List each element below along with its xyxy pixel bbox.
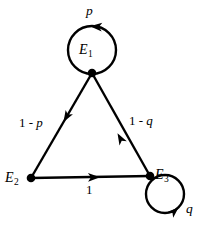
self-loop-label-q: q bbox=[186, 202, 193, 216]
state-label-E1-text: E bbox=[79, 42, 88, 57]
self-loop-label-p: p bbox=[86, 4, 93, 18]
state-label-E1: E1 bbox=[79, 43, 93, 59]
state-transition-diagram: E1 E2 E3 p q 1 - p 1 - q 1 bbox=[0, 0, 211, 231]
node-dot-E1[interactable] bbox=[88, 69, 97, 78]
state-label-E3: E3 bbox=[155, 168, 169, 184]
state-label-E2-text: E bbox=[5, 170, 14, 185]
state-label-E2: E2 bbox=[5, 171, 19, 187]
node-dot-E2[interactable] bbox=[27, 174, 36, 183]
edge-label-E3-E1: 1 - q bbox=[129, 114, 153, 127]
state-label-E3-text: E bbox=[155, 167, 164, 182]
state-label-E3-subscript: 3 bbox=[164, 174, 169, 184]
arrowhead-E1-E2 bbox=[60, 110, 73, 124]
edge-label-E1-E2-prefix: 1 - bbox=[19, 115, 36, 130]
state-label-E2-subscript: 2 bbox=[14, 177, 19, 187]
state-label-E1-subscript: 1 bbox=[88, 49, 93, 59]
edge-label-E3-E1-prefix: 1 - bbox=[129, 113, 146, 128]
edge-E2-to-E3 bbox=[31, 173, 150, 182]
node-dot-E3[interactable] bbox=[146, 172, 155, 181]
edge-label-E1-E2: 1 - p bbox=[19, 116, 43, 129]
edge-label-E2-E3: 1 bbox=[86, 183, 93, 196]
edge-label-E1-E2-variable: p bbox=[36, 115, 43, 130]
edge-label-E3-E1-variable: q bbox=[146, 113, 153, 128]
